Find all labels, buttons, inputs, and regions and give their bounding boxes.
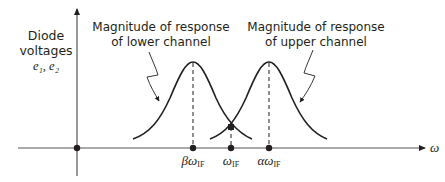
upper-annotation-line2: of upper channel	[265, 35, 367, 49]
tick-dot-alpha	[266, 145, 272, 151]
tick-label-center-main: ω	[223, 153, 232, 168]
lower-annotation-line1: Magnitude of response	[92, 20, 229, 34]
tick-label-beta: βωIF	[181, 153, 205, 169]
tick-dot-center	[228, 145, 234, 151]
y-axis-label-symbols: e₁, e₂	[33, 59, 60, 73]
tick-label-alpha: αωIF	[257, 153, 281, 169]
lower-annotation-line2: of lower channel	[111, 35, 211, 49]
upper-annotation-line1: Magnitude of response	[247, 20, 384, 34]
tick-dot-beta	[190, 145, 196, 151]
tick-label-beta-sub: IF	[197, 160, 205, 169]
lower-leader-arrow	[147, 52, 159, 101]
diagram-canvas: Diode voltages e₁, e₂ Magnitude of respo…	[0, 0, 445, 182]
tick-label-alpha-sub: IF	[273, 160, 281, 169]
y-axis-label-line1: Diode	[28, 28, 65, 43]
tick-label-beta-main: βω	[181, 153, 198, 168]
upper-leader-arrow	[300, 50, 315, 102]
tick-label-alpha-main: αω	[257, 153, 273, 168]
intersection-marker	[228, 124, 234, 130]
y-axis-label-line2: voltages	[19, 43, 72, 58]
tick-label-center-sub: IF	[232, 160, 240, 169]
tick-label-center: ωIF	[223, 153, 240, 169]
origin-dot	[74, 145, 80, 151]
x-axis-label: ω	[430, 140, 439, 155]
